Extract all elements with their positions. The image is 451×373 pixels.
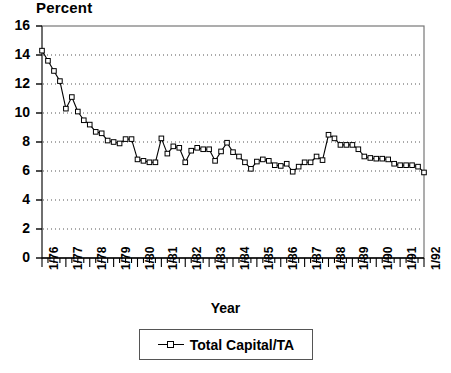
x-tick-label-1-79: 1/79 xyxy=(119,247,133,270)
x-tick-label-1-85: 1/85 xyxy=(262,247,276,270)
x-tick-label-1-89: 1/89 xyxy=(357,247,371,270)
x-tick-label-1-78: 1/78 xyxy=(95,247,109,270)
x-tick-label-1-83: 1/83 xyxy=(214,247,228,270)
y-tick-label-16: 16 xyxy=(4,17,30,33)
y-tick-label-2: 2 xyxy=(4,220,30,236)
x-tick-label-1-91: 1/91 xyxy=(405,247,419,270)
y-tick-label-14: 14 xyxy=(4,46,30,62)
x-tick-label-1-80: 1/80 xyxy=(143,247,157,270)
legend-label: Total Capital/TA xyxy=(190,337,294,353)
y-tick-label-0: 0 xyxy=(4,249,30,265)
y-tick-label-8: 8 xyxy=(4,133,30,149)
legend-line-marker-icon xyxy=(158,340,184,350)
x-axis-title: Year xyxy=(0,300,451,316)
y-tick-label-12: 12 xyxy=(4,75,30,91)
y-tick-label-10: 10 xyxy=(4,104,30,120)
chart-root: Percent 0246810121416 1/761/771/781/791/… xyxy=(0,0,451,373)
x-tick-label-1-92: 1/92 xyxy=(429,247,443,270)
y-tick-label-4: 4 xyxy=(4,191,30,207)
x-tick-label-1-84: 1/84 xyxy=(238,247,252,270)
chart-legend[interactable]: Total Capital/TA xyxy=(139,329,313,360)
x-tick-label-1-76: 1/76 xyxy=(47,247,61,270)
x-tick-label-1-81: 1/81 xyxy=(166,247,180,270)
x-tick-label-1-82: 1/82 xyxy=(190,247,204,270)
x-tick-label-1-77: 1/77 xyxy=(71,247,85,270)
x-tick-label-1-87: 1/87 xyxy=(310,247,324,270)
x-tick-label-1-86: 1/86 xyxy=(286,247,300,270)
plot-area xyxy=(0,0,451,285)
y-tick-label-6: 6 xyxy=(4,162,30,178)
chart-svg xyxy=(0,0,451,285)
x-tick-label-1-88: 1/88 xyxy=(334,247,348,270)
x-tick-label-1-90: 1/90 xyxy=(381,247,395,270)
